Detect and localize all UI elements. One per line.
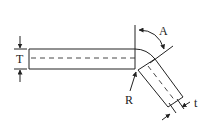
- bend-diagram: T A R t: [0, 0, 207, 132]
- straight-section: [29, 49, 135, 69]
- bend-curve: [135, 49, 155, 59]
- label-A: A: [159, 24, 168, 38]
- label-T: T: [16, 52, 24, 66]
- tangent-line: [150, 46, 173, 63]
- bent-section: [138, 59, 183, 107]
- label-R: R: [125, 93, 133, 107]
- label-t: t: [194, 96, 198, 110]
- radius-leader: [130, 72, 136, 91]
